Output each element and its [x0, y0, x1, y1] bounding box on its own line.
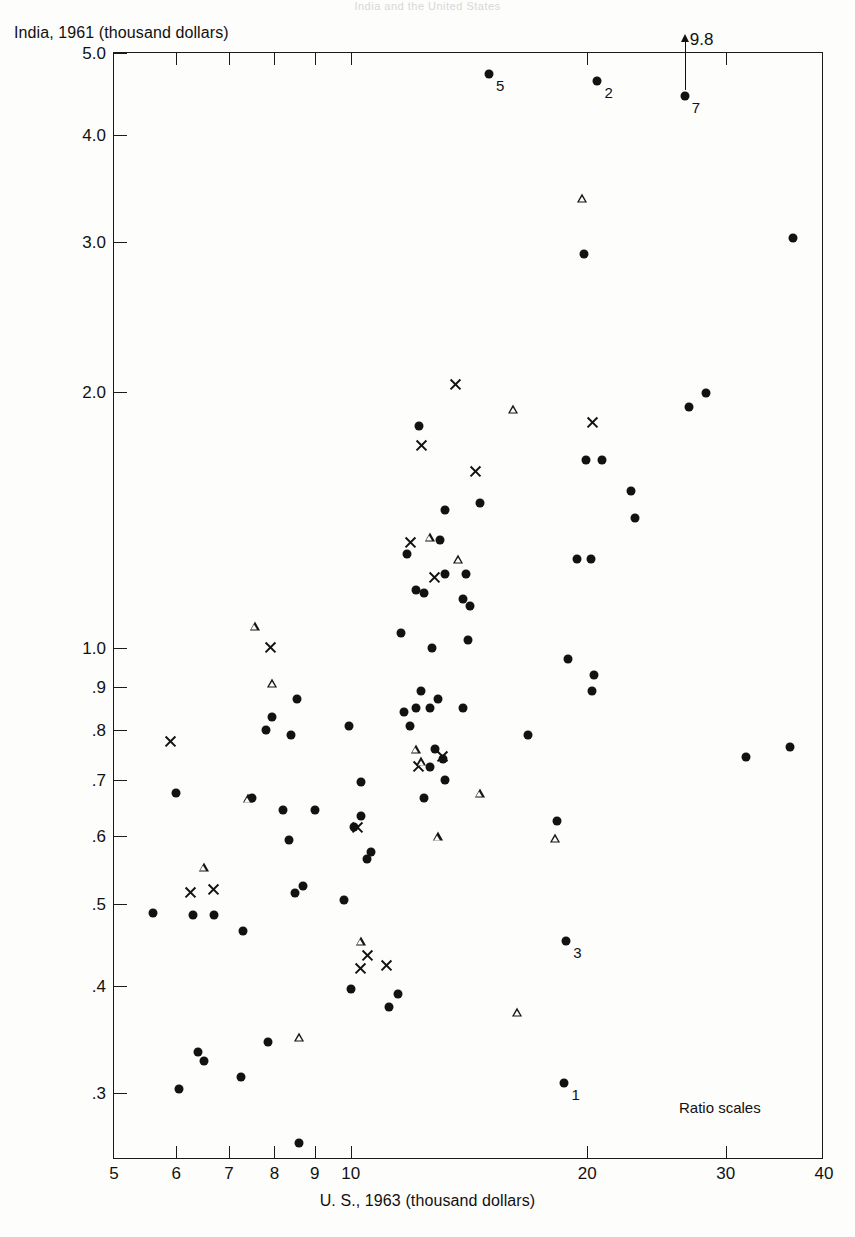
x-tick-mark — [229, 1146, 230, 1158]
y-tick-mark — [114, 392, 127, 393]
data-point-cross — [264, 641, 277, 654]
data-point-circle — [295, 1138, 304, 1147]
data-point-label: 2 — [604, 85, 612, 100]
data-point-circle — [428, 643, 437, 652]
data-point-triangle — [243, 794, 253, 803]
data-point-circle — [459, 703, 468, 712]
x-tick-mark — [315, 1146, 316, 1158]
data-point-circle — [310, 805, 319, 814]
plot-area: 5.04.03.02.01.0.9.8.7.6.5.4.356789102030… — [113, 52, 823, 1159]
x-tick-mark-top — [351, 53, 352, 65]
data-point-label: 3 — [573, 945, 581, 960]
data-point-circle — [417, 686, 426, 695]
data-point-circle — [363, 854, 372, 863]
x-tick-mark — [351, 1146, 352, 1158]
data-point-label: 7 — [692, 100, 700, 115]
data-point-circle — [590, 670, 599, 679]
data-point-circle — [572, 555, 581, 564]
x-tick-label: 5 — [109, 1165, 118, 1182]
data-point-label: 5 — [496, 78, 504, 93]
data-point-circle — [441, 570, 450, 579]
data-point-cross — [354, 962, 367, 975]
data-point-triangle — [294, 1032, 304, 1041]
data-point-cross — [404, 536, 417, 549]
data-point-circle — [261, 726, 270, 735]
y-tick-label: .6 — [92, 828, 106, 845]
data-point-cross — [586, 416, 599, 429]
data-point-circle — [394, 989, 403, 998]
data-point-cross — [207, 883, 220, 896]
data-point-triangle — [512, 1008, 522, 1017]
data-point-triangle — [508, 404, 518, 413]
data-point-circle — [414, 422, 423, 431]
data-point-circle — [397, 629, 406, 638]
data-point-cross — [436, 750, 449, 763]
data-point-triangle — [267, 678, 277, 687]
x-tick-mark — [274, 1146, 275, 1158]
data-point-circle — [441, 775, 450, 784]
data-point-circle — [194, 1047, 203, 1056]
data-point-circle — [436, 535, 445, 544]
data-point-cross — [449, 378, 462, 391]
data-point-circle — [287, 730, 296, 739]
data-point-circle — [299, 881, 308, 890]
x-tick-mark — [726, 1146, 727, 1158]
data-point-circle — [268, 712, 277, 721]
y-tick-mark — [114, 135, 127, 136]
data-point-cross — [415, 439, 428, 452]
data-point-circle — [425, 703, 434, 712]
y-tick-mark — [114, 687, 127, 688]
x-tick-mark-top — [587, 53, 588, 65]
data-point-circle — [236, 1072, 245, 1081]
data-point-cross — [469, 465, 482, 478]
data-point-circle — [264, 1038, 273, 1047]
data-point-circle — [564, 654, 573, 663]
y-tick-label: 5.0 — [82, 45, 106, 62]
y-tick-mark — [114, 648, 127, 649]
x-axis-title: U. S., 1963 (thousand dollars) — [0, 1192, 855, 1210]
y-tick-mark — [114, 904, 127, 905]
x-tick-label: 40 — [815, 1165, 834, 1182]
data-point-triangle — [356, 937, 366, 946]
data-point-circle — [420, 794, 429, 803]
data-point-circle — [285, 835, 294, 844]
y-tick-label: .7 — [92, 771, 106, 788]
ratio-scales-note: Ratio scales — [679, 1100, 761, 1115]
data-point-circle — [586, 555, 595, 564]
data-point-triangle — [433, 832, 443, 841]
data-point-circle — [433, 695, 442, 704]
data-point-circle — [293, 695, 302, 704]
scatter-plot-figure: India and the United States India, 1961 … — [0, 0, 855, 1237]
data-point-circle — [684, 402, 693, 411]
x-tick-label: 9 — [310, 1165, 319, 1182]
x-tick-mark-top — [726, 53, 727, 65]
data-point-circle — [385, 1003, 394, 1012]
x-tick-label: 7 — [224, 1165, 233, 1182]
data-point-cross — [351, 821, 364, 834]
data-point-circle — [199, 1056, 208, 1065]
data-point-circle — [239, 926, 248, 935]
data-point-triangle — [199, 863, 209, 872]
data-point-cross — [164, 735, 177, 748]
data-point-circle — [278, 805, 287, 814]
y-tick-label: .4 — [92, 978, 106, 995]
offscale-value-label: 9.8 — [690, 31, 714, 48]
data-point-circle — [188, 911, 197, 920]
data-point-circle — [411, 703, 420, 712]
x-tick-label: 6 — [172, 1165, 181, 1182]
data-point-circle — [562, 937, 571, 946]
x-tick-label: 20 — [578, 1165, 597, 1182]
data-point-circle — [593, 77, 602, 86]
data-point-circle — [356, 778, 365, 787]
y-tick-label: .8 — [92, 722, 106, 739]
data-point-circle — [172, 788, 181, 797]
data-point-circle — [485, 70, 494, 79]
data-point-circle — [475, 498, 484, 507]
data-point-cross — [428, 571, 441, 584]
data-point-circle — [680, 92, 689, 101]
data-point-circle — [346, 985, 355, 994]
x-tick-label: 8 — [270, 1165, 279, 1182]
x-tick-mark — [587, 1146, 588, 1158]
data-point-circle — [406, 721, 415, 730]
data-point-circle — [344, 721, 353, 730]
